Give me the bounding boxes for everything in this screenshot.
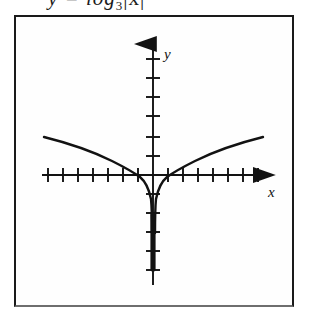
caption-equation-arg: |x|: [123, 0, 145, 10]
graph-canvas: x y: [16, 17, 292, 305]
y-axis: y: [146, 44, 171, 285]
caption-equation-lhs: y = log: [48, 0, 116, 10]
curve-right-branch: [155, 137, 263, 233]
x-axis: x: [42, 168, 275, 200]
curve-left-branch: [44, 137, 152, 233]
y-axis-label: y: [162, 46, 171, 62]
caption-fragment: y = log3|x|: [0, 0, 309, 13]
x-axis-label: x: [267, 184, 275, 200]
caption-text: y = log3|x|: [48, 0, 145, 13]
figure-frame: x y: [14, 15, 294, 307]
